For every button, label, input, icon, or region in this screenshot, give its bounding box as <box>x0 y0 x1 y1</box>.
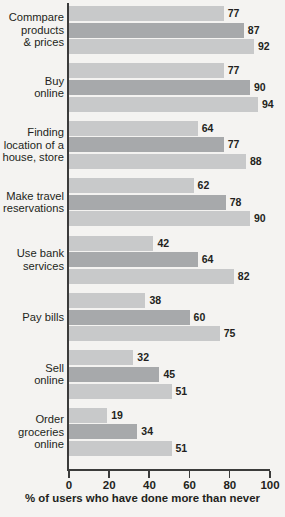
category-label: Finding location of a house, store <box>0 126 64 164</box>
bar <box>69 63 224 78</box>
bar-value-label: 77 <box>228 63 240 78</box>
bar-value-label: 19 <box>111 408 123 423</box>
bar <box>69 39 254 54</box>
category-label: Commpare products & prices <box>0 11 64 49</box>
x-tick-60 <box>189 471 191 478</box>
x-axis-title: % of users who have done more than never <box>0 492 285 504</box>
x-tick-40 <box>148 471 150 478</box>
x-tick-label-40: 40 <box>143 479 156 491</box>
category-label: Make travel reservations <box>0 190 64 215</box>
bar <box>69 408 107 423</box>
bar <box>69 367 159 382</box>
x-tick-80 <box>229 471 231 478</box>
x-tick-label-0: 0 <box>66 479 72 491</box>
x-tick-label-20: 20 <box>103 479 116 491</box>
bar-group: Buy online779094 <box>0 63 285 111</box>
bar-value-label: 60 <box>194 310 206 325</box>
bar-value-label: 32 <box>137 350 149 365</box>
x-tick-0 <box>68 471 70 478</box>
bar <box>69 211 250 226</box>
bar <box>69 97 258 112</box>
bar-chart: 020406080100 Commpare products & prices7… <box>0 0 285 517</box>
bar <box>69 310 190 325</box>
x-tick-label-80: 80 <box>223 479 236 491</box>
x-tick-20 <box>108 471 110 478</box>
bar-group: Make travel reservations627890 <box>0 178 285 226</box>
bar-value-label: 90 <box>254 80 266 95</box>
bar-value-label: 42 <box>157 236 169 251</box>
bar-value-label: 64 <box>202 121 214 136</box>
bar-value-label: 92 <box>258 39 270 54</box>
bar-group: Pay bills386075 <box>0 293 285 341</box>
bar-value-label: 62 <box>198 178 210 193</box>
bar <box>69 441 172 456</box>
bar-value-label: 94 <box>262 97 274 112</box>
x-axis-line <box>67 469 270 471</box>
bar <box>69 178 194 193</box>
bar <box>69 252 198 267</box>
bar-value-label: 51 <box>176 384 188 399</box>
bar-group: Commpare products & prices778792 <box>0 6 285 54</box>
bar-value-label: 38 <box>149 293 161 308</box>
bar <box>69 6 224 21</box>
bar <box>69 424 137 439</box>
bar <box>69 23 244 38</box>
bar-value-label: 87 <box>248 23 260 38</box>
x-tick-label-100: 100 <box>260 479 279 491</box>
bar-group: Sell online324551 <box>0 350 285 398</box>
bar-group: Use bank services426482 <box>0 236 285 284</box>
category-label: Order groceries online <box>0 413 64 451</box>
bar-value-label: 77 <box>228 6 240 21</box>
bar-value-label: 82 <box>238 269 250 284</box>
bar-value-label: 75 <box>224 326 236 341</box>
plot-area: 020406080100 Commpare products & prices7… <box>0 0 285 517</box>
bar <box>69 80 250 95</box>
bar <box>69 236 153 251</box>
bar-value-label: 45 <box>163 367 175 382</box>
bar <box>69 326 220 341</box>
bar <box>69 195 226 210</box>
bar-value-label: 64 <box>202 252 214 267</box>
category-label: Sell online <box>0 362 64 387</box>
bar-value-label: 78 <box>230 195 242 210</box>
bar-value-label: 34 <box>141 424 153 439</box>
bar-value-label: 88 <box>250 154 262 169</box>
x-tick-label-60: 60 <box>183 479 196 491</box>
bar-value-label: 51 <box>176 441 188 456</box>
category-label: Buy online <box>0 75 64 100</box>
bar <box>69 293 145 308</box>
bar-group: Order groceries online193451 <box>0 408 285 456</box>
x-tick-100 <box>269 471 271 478</box>
bar <box>69 154 246 169</box>
bar <box>69 384 172 399</box>
bar <box>69 350 133 365</box>
bar <box>69 269 234 284</box>
bar <box>69 121 198 136</box>
bar-value-label: 90 <box>254 211 266 226</box>
bar-value-label: 77 <box>228 137 240 152</box>
category-label: Pay bills <box>0 311 64 324</box>
bar-group: Finding location of a house, store647788 <box>0 121 285 169</box>
bar <box>69 137 224 152</box>
category-label: Use bank services <box>0 247 64 272</box>
